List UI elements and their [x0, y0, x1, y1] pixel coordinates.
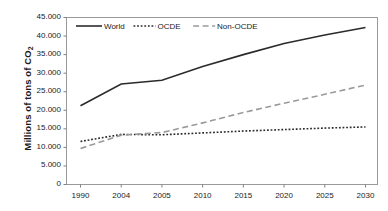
plot-area: WorldOCDENon-OCDE: [0, 0, 388, 211]
legend-label: OCDE: [158, 22, 181, 31]
chart-legend: WorldOCDENon-OCDE: [76, 22, 258, 31]
data-series-layer: [81, 28, 366, 149]
series-line-ocde: [81, 127, 366, 141]
series-line-non-ocde: [81, 85, 366, 148]
legend-label: World: [104, 22, 125, 31]
legend-label: Non-OCDE: [217, 22, 257, 31]
co2-emissions-line-chart: Millions of tons of CO2 05.00010.00015.0…: [0, 0, 388, 211]
plot-border: [67, 18, 378, 185]
legend-item-ocde[interactable]: OCDE: [134, 22, 181, 31]
legend-item-world[interactable]: World: [76, 22, 125, 31]
legend-item-non-ocde[interactable]: Non-OCDE: [193, 22, 257, 31]
